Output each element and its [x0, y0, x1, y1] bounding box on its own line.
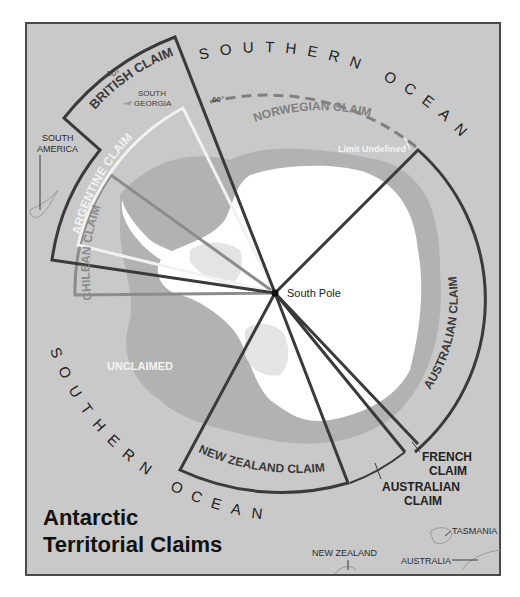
australian-west-claim-label-line2: CLAIM — [404, 494, 442, 508]
south-georgia-label-line2: GEORGIA — [134, 99, 172, 108]
south-america-label-line1: SOUTH — [42, 133, 74, 143]
tasmania-label: TASMANIA — [452, 526, 497, 536]
new-zealand-place-label: NEW ZEALAND — [312, 548, 378, 558]
map-title-line2: Territorial Claims — [43, 532, 222, 557]
south-pole-label: South Pole — [287, 287, 341, 299]
map-title-line1: Antarctic — [43, 505, 138, 530]
french-claim-label-line2: CLAIM — [429, 464, 467, 478]
latitude-50-label: 50° — [107, 69, 119, 78]
south-america-label-line2: AMERICA — [37, 144, 78, 154]
australia-label: AUSTRALIA — [401, 556, 451, 566]
antarctic-claims-map: South Pole SOUTHERN OCEAN SOUTHERN OCEAN… — [0, 0, 520, 597]
french-claim-label-line1: FRENCH — [422, 450, 472, 464]
latitude-60-label-a: 60° — [212, 95, 224, 104]
south-georgia-label-line1: SOUTH — [138, 89, 166, 98]
limit-undefined-label: Limit Undefined — [338, 144, 406, 154]
australian-west-claim-label-line1: AUSTRALIAN — [382, 480, 460, 494]
unclaimed-label: UNCLAIMED — [107, 360, 173, 372]
south-pole-marker — [272, 290, 279, 297]
